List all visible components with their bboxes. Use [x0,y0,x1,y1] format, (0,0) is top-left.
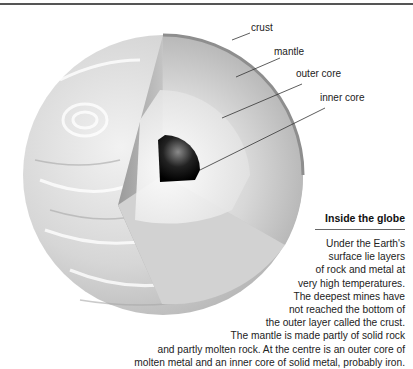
caption-line: The deepest mines have [293,291,405,302]
label-mantle: mantle [274,46,304,57]
caption-text: Under the Earth's surface lie layers of … [105,237,405,369]
caption-line: the outer layer called the crust. [266,317,405,328]
caption-line: surface lie layers [329,251,405,262]
caption-line: not reached the bottom of [289,304,405,315]
caption-line: molten metal and an inner core of solid … [134,357,405,368]
caption-rule [315,229,405,230]
caption-line: of rock and metal at [316,264,405,275]
caption-block: Inside the globe Under the Earth's surfa… [105,212,405,369]
caption-line: very high temperatures. [298,278,405,289]
caption-line: The mantle is made partly of solid rock [231,330,405,341]
crust-leader [232,33,250,40]
caption-line: Under the Earth's [326,238,405,249]
label-inner-core: inner core [320,92,364,103]
caption-title: Inside the globe [105,212,405,224]
caption-line: and partly molten rock. At the centre is… [158,344,405,355]
label-outer-core: outer core [296,68,341,79]
label-crust: crust [251,22,273,33]
